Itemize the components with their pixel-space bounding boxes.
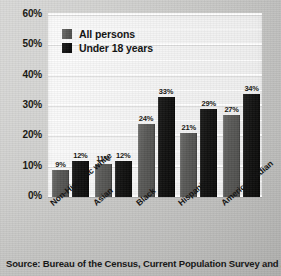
bar-value-label: 21%: [182, 123, 196, 132]
bar-value-label: 27%: [224, 105, 238, 114]
legend-swatch-under-18-years: [62, 43, 72, 53]
bar-group: 21%29%: [180, 15, 217, 197]
y-axis-tick-label: 10%: [23, 159, 42, 170]
y-axis-tick-label: 20%: [23, 129, 42, 140]
bar-value-label: 12%: [73, 151, 87, 160]
y-axis-tick-label: 0%: [28, 190, 42, 201]
source-note: Source: Bureau of the Census, Current Po…: [6, 258, 281, 269]
bar-value-label: 9%: [55, 160, 65, 169]
y-axis-tick-label: 60%: [23, 8, 42, 19]
y-axis-tick-label: 50%: [23, 38, 42, 49]
y-axis-tick-label: 40%: [23, 68, 42, 79]
bar-value-label: 29%: [202, 99, 216, 108]
chart-legend: All persons Under 18 years: [62, 27, 153, 55]
bar-under-18-years: 12%: [115, 161, 132, 197]
bar-value-label: 34%: [244, 84, 258, 93]
legend-label-all-persons: All persons: [79, 28, 135, 40]
legend-item-all-persons: All persons: [62, 27, 153, 41]
y-axis-tick-label: 30%: [23, 99, 42, 110]
bar-under-18-years: 33%: [158, 97, 175, 197]
legend-label-under-18-years: Under 18 years: [79, 42, 153, 54]
bar-value-label: 33%: [159, 87, 173, 96]
bar-value-label: 12%: [116, 151, 130, 160]
bar-value-label: 24%: [139, 114, 153, 123]
legend-item-under-18-years: Under 18 years: [62, 41, 153, 55]
chart-page: 60%50%40%30%20%10%0%9%12%11%12%24%33%21%…: [0, 0, 281, 276]
legend-swatch-all-persons: [62, 29, 72, 39]
